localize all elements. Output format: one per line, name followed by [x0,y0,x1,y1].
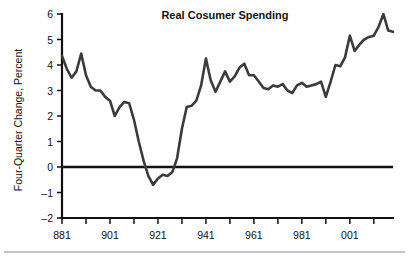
chart-title: Real Cosumer Spending [161,9,288,21]
y-tick-label: –1 [41,187,53,199]
x-tick-label: 001 [341,229,359,241]
y-tick-label: 2 [47,110,53,122]
chart-figure: Real Cosumer Spending Four-Quarter Chang… [0,0,409,264]
x-axis-tick-labels: 881901921941961981001 [53,229,359,241]
data-series-line [62,14,393,185]
x-tick-label: 941 [197,229,215,241]
y-tick-label: 4 [47,59,53,71]
x-tick-label: 981 [293,229,311,241]
x-tick-label: 961 [245,229,263,241]
y-axis-title: Four-Quarter Change, Percent [12,49,24,191]
y-tick-label: 0 [47,161,53,173]
real-consumer-spending-chart: Real Cosumer Spending Four-Quarter Chang… [0,0,409,264]
x-tick-label: 881 [53,229,71,241]
x-tick-label: 901 [101,229,119,241]
y-tick-label: –2 [41,212,53,224]
y-tick-label: 1 [47,136,53,148]
y-tick-label: 3 [47,85,53,97]
y-axis-tick-labels: 6543210–1–2 [41,8,53,224]
y-tick-label: 6 [47,8,53,20]
y-tick-label: 5 [47,34,53,46]
x-tick-label: 921 [149,229,167,241]
